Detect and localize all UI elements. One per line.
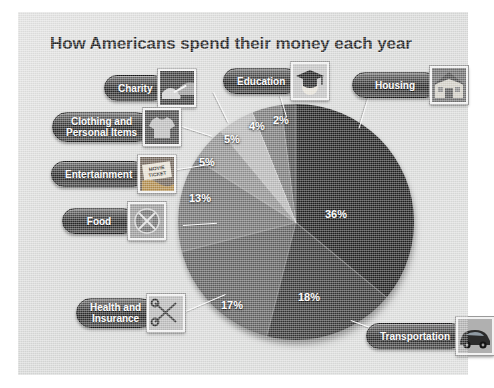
slice-label-transportation: 18% (298, 291, 320, 303)
callout-pill-charity[interactable]: Charity (104, 75, 166, 101)
callout-food[interactable]: Food (62, 202, 166, 240)
callout-housing[interactable]: Housing (352, 66, 468, 104)
pie-slice-divider (266, 222, 296, 337)
slice-label-charity: 4% (249, 120, 265, 132)
slice-label-clothing: 5% (224, 133, 240, 145)
house-icon (430, 66, 468, 104)
car-icon (456, 317, 494, 355)
plate-icon (128, 202, 166, 240)
pie-chart: 36% 18% 17% 13% 5% 5% 4% 2% (178, 104, 418, 349)
callout-pill-transportation[interactable]: Transportation (366, 323, 464, 349)
callout-transportation[interactable]: Transportation (366, 317, 494, 355)
callout-label-housing: Housing (375, 80, 415, 91)
callout-pill-food[interactable]: Food (62, 208, 136, 234)
page-title: How Americans spend their money each yea… (50, 34, 412, 54)
callout-label-clothing: Clothing and Personal Items (66, 116, 137, 138)
callout-entertainment[interactable]: Entertainment MOVIE TICKET (51, 155, 176, 193)
callout-label-health: Health and Insurance (90, 302, 141, 324)
pie-slice-divider (182, 222, 297, 252)
scissors-icon (147, 294, 185, 332)
callout-label-food: Food (87, 216, 111, 227)
pie-slice-divider (296, 105, 297, 223)
callout-pill-clothing[interactable]: Clothing and Personal Items (52, 112, 151, 142)
callout-charity[interactable]: Charity (104, 69, 196, 107)
tshirt-icon (143, 108, 181, 146)
callout-education[interactable]: Education (223, 62, 329, 100)
callout-label-education: Education (237, 76, 285, 87)
callout-label-transportation: Transportation (380, 331, 450, 342)
chart-panel: How Americans spend their money each yea… (18, 12, 468, 375)
slice-label-food: 13% (189, 192, 211, 204)
callout-label-entertainment: Entertainment (65, 169, 132, 180)
callout-clothing[interactable]: Clothing and Personal Items (52, 108, 181, 146)
callout-label-charity: Charity (118, 83, 152, 94)
movie-ticket-icon: MOVIE TICKET (138, 155, 176, 193)
callout-pill-housing[interactable]: Housing (352, 72, 438, 98)
callout-pill-education[interactable]: Education (223, 68, 299, 94)
slice-label-housing: 36% (325, 208, 347, 220)
graduation-cap-icon (291, 62, 329, 100)
callout-pill-health[interactable]: Health and Insurance (76, 298, 155, 328)
pie-slice-divider (196, 159, 296, 223)
callout-health[interactable]: Health and Insurance (76, 294, 185, 332)
slice-label-health: 17% (221, 299, 243, 311)
pie-slice-divider (296, 222, 388, 298)
helping-hands-icon (158, 69, 196, 107)
callout-pill-entertainment[interactable]: Entertainment (51, 161, 146, 187)
